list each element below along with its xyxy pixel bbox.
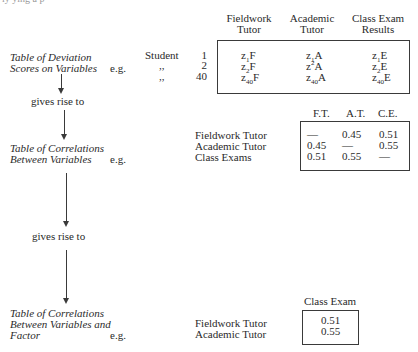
matrix-cell: 0.51	[307, 151, 326, 162]
row-label: Academic Tutor	[195, 329, 266, 340]
col-header-line2: Results	[344, 24, 412, 35]
stage2-label-line2: Between Variables	[10, 154, 92, 165]
cutoff-text: ly ying a p	[2, 0, 45, 4]
stage3-label-line3: Factor	[10, 330, 40, 341]
row-label: Class Exams	[195, 152, 252, 163]
arrow-down-icon	[58, 88, 64, 94]
stage3-eg: e.g.	[110, 330, 126, 341]
col-header-ft: F.T.	[313, 108, 330, 119]
col-header-line2: Tutor	[282, 24, 342, 35]
score-cell: z40A	[306, 72, 326, 83]
score-cell: z40E	[372, 72, 391, 83]
arrow-down-icon	[63, 221, 69, 227]
col-header-at: A.T.	[346, 108, 365, 119]
col-header-line2: Tutor	[217, 24, 281, 35]
matrix-cell: 0.55	[342, 151, 361, 162]
loading-cell: 0.55	[302, 326, 359, 337]
col-header-ce: C.E.	[378, 108, 398, 119]
matrix-cell: —	[379, 151, 390, 162]
stage2-eg: e.g.	[110, 154, 126, 165]
stage1-eg: e.g.	[110, 63, 126, 74]
row-index: 40	[190, 71, 207, 82]
col-header-classexam: Class Exam Results	[344, 13, 412, 35]
col-header-academic: Academic Tutor	[282, 13, 342, 35]
connector-label: gives rise to	[31, 96, 84, 107]
arrow-line	[66, 173, 67, 223]
row-label-ditto: ,,	[159, 71, 165, 82]
score-cell: z40F	[241, 72, 259, 83]
stage1-label-line2: Scores on Variables	[10, 63, 97, 74]
arrow-down-icon	[61, 134, 67, 140]
connector-label: gives rise to	[32, 231, 85, 242]
col-header-fieldwork: Fieldwork Tutor	[217, 13, 281, 35]
col-header-class-exam: Class Exam	[295, 296, 365, 307]
arrow-line	[64, 110, 65, 136]
arrow-line	[66, 250, 67, 300]
arrow-down-icon	[63, 298, 69, 304]
